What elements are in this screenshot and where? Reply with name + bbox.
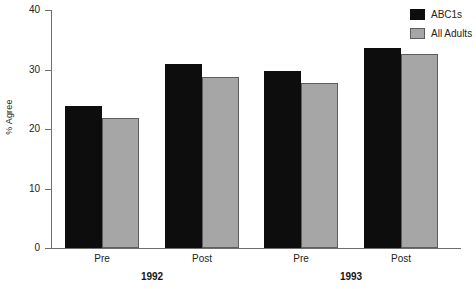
- y-tick-label: 10: [2, 184, 40, 194]
- chart-legend: ABC1s All Adults: [410, 7, 476, 45]
- y-tick: 10: [0, 189, 51, 190]
- bar-chart: 010203040 % Agree PrePostPrePost 1992199…: [0, 0, 476, 289]
- legend-item: All Adults: [410, 26, 476, 41]
- category-label: Pre: [55, 253, 149, 265]
- y-tick-mark: [45, 248, 51, 249]
- legend-swatch-icon: [410, 28, 425, 39]
- legend-swatch-icon: [410, 9, 425, 20]
- bar: [65, 106, 102, 248]
- group-label: 1993: [311, 271, 391, 283]
- y-axis-title: % Agree: [4, 87, 14, 147]
- y-tick: 40: [0, 10, 51, 11]
- y-tick-mark: [45, 189, 51, 190]
- category-label: Post: [155, 253, 249, 265]
- y-tick-mark: [45, 129, 51, 130]
- y-axis-line: [51, 10, 52, 248]
- bar: [401, 54, 438, 248]
- bar: [165, 64, 202, 248]
- caption-strip: [52, 284, 472, 289]
- bar: [364, 48, 401, 249]
- x-axis-line: [51, 248, 461, 249]
- group-label: 1992: [112, 271, 192, 283]
- plot-area: 010203040 % Agree PrePostPrePost 1992199…: [0, 0, 476, 289]
- y-tick: 30: [0, 70, 51, 71]
- category-label: Pre: [254, 253, 348, 265]
- bar: [102, 118, 139, 248]
- legend-label: All Adults: [431, 28, 472, 39]
- y-tick-label: 0: [2, 243, 40, 253]
- y-tick-mark: [45, 10, 51, 11]
- legend-item: ABC1s: [410, 7, 476, 22]
- bar: [202, 77, 239, 248]
- y-tick-label: 40: [2, 5, 40, 15]
- category-label: Post: [354, 253, 448, 265]
- legend-label: ABC1s: [431, 9, 462, 20]
- bar: [264, 71, 301, 248]
- y-tick: 0: [0, 248, 51, 249]
- y-tick-mark: [45, 70, 51, 71]
- y-tick-label: 30: [2, 65, 40, 75]
- bar: [301, 83, 338, 248]
